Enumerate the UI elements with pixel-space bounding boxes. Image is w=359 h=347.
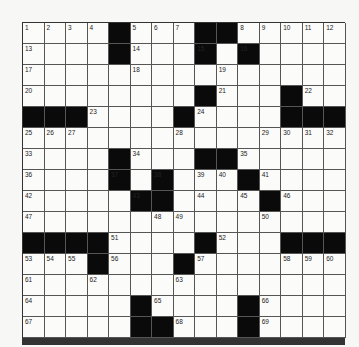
grid-cell[interactable] xyxy=(174,191,196,212)
grid-cell[interactable]: 67 xyxy=(23,317,45,338)
grid-cell[interactable] xyxy=(152,233,174,254)
grid-cell[interactable]: 59 xyxy=(303,254,325,275)
grid-cell[interactable]: 40 xyxy=(217,170,239,191)
grid-cell[interactable]: 45 xyxy=(238,191,260,212)
grid-cell[interactable] xyxy=(303,191,325,212)
grid-cell[interactable] xyxy=(66,170,88,191)
grid-cell[interactable] xyxy=(217,275,239,296)
grid-cell[interactable] xyxy=(109,86,131,107)
grid-cell[interactable]: 53 xyxy=(23,254,45,275)
grid-cell[interactable]: 6 xyxy=(152,23,174,44)
grid-cell[interactable] xyxy=(281,44,303,65)
grid-cell[interactable] xyxy=(88,128,110,149)
grid-cell[interactable]: 5 xyxy=(131,23,153,44)
grid-cell[interactable] xyxy=(88,317,110,338)
grid-cell[interactable] xyxy=(238,233,260,254)
grid-cell[interactable] xyxy=(324,170,346,191)
grid-cell[interactable] xyxy=(281,212,303,233)
grid-cell[interactable]: 29 xyxy=(260,128,282,149)
grid-cell[interactable] xyxy=(195,296,217,317)
grid-cell[interactable] xyxy=(303,65,325,86)
grid-cell[interactable] xyxy=(109,212,131,233)
grid-cell[interactable] xyxy=(45,170,67,191)
grid-cell[interactable] xyxy=(260,107,282,128)
grid-cell[interactable]: 56 xyxy=(109,254,131,275)
grid-cell[interactable] xyxy=(152,254,174,275)
grid-cell[interactable] xyxy=(152,86,174,107)
grid-cell[interactable]: 27 xyxy=(66,128,88,149)
grid-cell[interactable]: 26 xyxy=(45,128,67,149)
grid-cell[interactable] xyxy=(260,149,282,170)
grid-cell[interactable] xyxy=(88,191,110,212)
grid-cell[interactable] xyxy=(66,212,88,233)
grid-cell[interactable]: 30 xyxy=(281,128,303,149)
grid-cell[interactable] xyxy=(88,65,110,86)
grid-cell[interactable] xyxy=(45,212,67,233)
grid-cell[interactable] xyxy=(152,128,174,149)
grid-cell[interactable]: 12 xyxy=(324,23,346,44)
grid-cell[interactable] xyxy=(152,107,174,128)
grid-cell[interactable] xyxy=(303,275,325,296)
grid-cell[interactable] xyxy=(109,128,131,149)
grid-cell[interactable] xyxy=(66,65,88,86)
grid-cell[interactable] xyxy=(131,233,153,254)
grid-cell[interactable] xyxy=(66,317,88,338)
grid-cell[interactable] xyxy=(324,317,346,338)
grid-cell[interactable] xyxy=(281,317,303,338)
grid-cell[interactable]: 46 xyxy=(281,191,303,212)
grid-cell[interactable] xyxy=(66,149,88,170)
grid-cell[interactable]: 11 xyxy=(303,23,325,44)
grid-cell[interactable]: 32 xyxy=(324,128,346,149)
grid-cell[interactable] xyxy=(88,296,110,317)
grid-cell[interactable] xyxy=(238,86,260,107)
grid-cell[interactable] xyxy=(174,149,196,170)
grid-cell[interactable] xyxy=(217,191,239,212)
grid-cell[interactable]: 20 xyxy=(23,86,45,107)
grid-cell[interactable] xyxy=(324,296,346,317)
grid-cell[interactable]: 50 xyxy=(260,212,282,233)
grid-cell[interactable]: 62 xyxy=(88,275,110,296)
grid-cell[interactable]: 22 xyxy=(303,86,325,107)
grid-cell[interactable] xyxy=(88,170,110,191)
grid-cell[interactable]: 31 xyxy=(303,128,325,149)
grid-cell[interactable] xyxy=(303,170,325,191)
grid-cell[interactable] xyxy=(195,65,217,86)
grid-cell[interactable] xyxy=(174,65,196,86)
grid-cell[interactable] xyxy=(217,254,239,275)
grid-cell[interactable]: 24 xyxy=(195,107,217,128)
grid-cell[interactable] xyxy=(303,317,325,338)
grid-cell[interactable]: 68 xyxy=(174,317,196,338)
grid-cell[interactable] xyxy=(109,317,131,338)
grid-cell[interactable] xyxy=(152,44,174,65)
grid-cell[interactable] xyxy=(281,149,303,170)
grid-cell[interactable] xyxy=(260,275,282,296)
grid-cell[interactable]: 8 xyxy=(238,23,260,44)
grid-cell[interactable] xyxy=(66,296,88,317)
grid-cell[interactable] xyxy=(217,128,239,149)
grid-cell[interactable] xyxy=(131,212,153,233)
grid-cell[interactable] xyxy=(174,170,196,191)
grid-cell[interactable] xyxy=(152,275,174,296)
grid-cell[interactable]: 58 xyxy=(281,254,303,275)
grid-cell[interactable] xyxy=(195,212,217,233)
grid-cell[interactable]: 35 xyxy=(238,149,260,170)
grid-cell[interactable] xyxy=(109,275,131,296)
grid-cell[interactable] xyxy=(109,296,131,317)
grid-cell[interactable]: 52 xyxy=(217,233,239,254)
grid-cell[interactable]: 55 xyxy=(66,254,88,275)
grid-cell[interactable]: 51 xyxy=(109,233,131,254)
grid-cell[interactable]: 7 xyxy=(174,23,196,44)
grid-cell[interactable] xyxy=(238,254,260,275)
grid-cell[interactable] xyxy=(66,191,88,212)
grid-cell[interactable]: 66 xyxy=(260,296,282,317)
grid-cell[interactable] xyxy=(217,296,239,317)
grid-cell[interactable]: 1 xyxy=(23,23,45,44)
grid-cell[interactable]: 36 xyxy=(23,170,45,191)
grid-cell[interactable] xyxy=(281,296,303,317)
grid-cell[interactable]: 49 xyxy=(174,212,196,233)
grid-cell[interactable]: 64 xyxy=(23,296,45,317)
grid-cell[interactable]: 54 xyxy=(45,254,67,275)
grid-cell[interactable]: 63 xyxy=(174,275,196,296)
grid-cell[interactable]: 13 xyxy=(23,44,45,65)
grid-cell[interactable] xyxy=(152,65,174,86)
